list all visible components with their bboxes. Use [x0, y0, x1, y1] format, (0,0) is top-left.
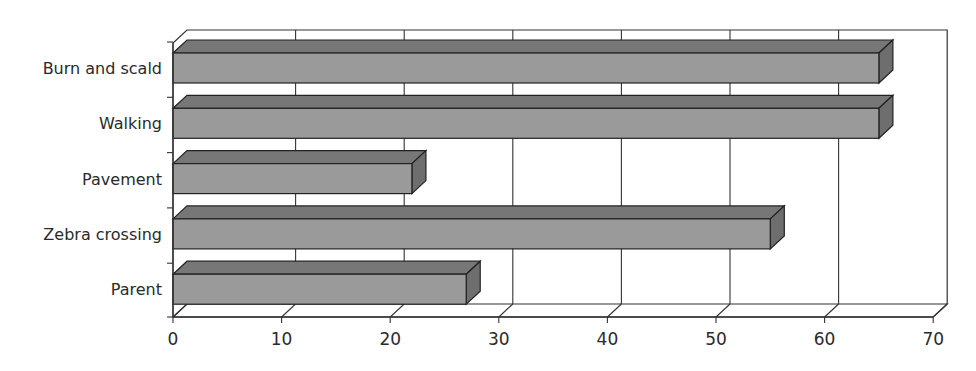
x-tick-label: 40 [597, 329, 619, 349]
x-tick-label: 30 [488, 329, 510, 349]
bar-burn-and-scald [173, 40, 893, 83]
bar-walking [173, 95, 893, 138]
bar-parent [173, 261, 480, 304]
x-tick-label: 0 [168, 329, 179, 349]
bar-chart: 010203040506070Burn and scaldWalkingPave… [0, 0, 976, 371]
floor-gridline [716, 304, 730, 317]
category-label: Zebra crossing [43, 225, 162, 244]
category-label: Burn and scald [43, 59, 162, 78]
x-tick-label: 70 [922, 329, 944, 349]
bars [173, 40, 893, 304]
floor-gridline [173, 304, 187, 317]
floor-gridline [499, 304, 513, 317]
x-tick-label: 50 [705, 329, 727, 349]
category-label: Walking [99, 114, 162, 133]
floor-gridline [390, 304, 404, 317]
x-tick-label: 60 [814, 329, 836, 349]
floor-gridline [607, 304, 621, 317]
x-tick-label: 20 [379, 329, 401, 349]
floor-gridline [933, 304, 947, 317]
bar-zebra-crossing [173, 206, 784, 249]
category-label: Pavement [82, 170, 162, 189]
category-label: Parent [111, 280, 162, 299]
x-tick-label: 10 [271, 329, 293, 349]
bar-pavement [173, 151, 426, 194]
floor-gridline [282, 304, 296, 317]
floor-gridline [825, 304, 839, 317]
